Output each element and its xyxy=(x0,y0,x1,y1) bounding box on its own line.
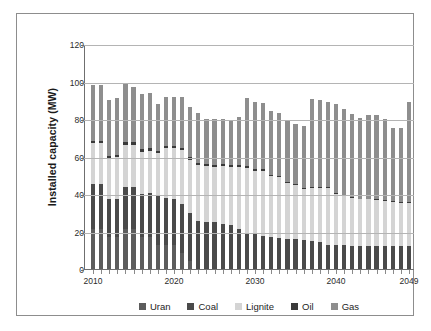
bar-2037[interactable] xyxy=(310,99,314,269)
bar-2038[interactable] xyxy=(318,100,322,269)
x-tick-mark-2044 xyxy=(368,270,369,274)
bar-segment-gas-2048 xyxy=(399,128,403,202)
legend-item-coal[interactable]: Coal xyxy=(187,302,218,312)
bar-2018[interactable] xyxy=(156,104,160,269)
bar-2045[interactable] xyxy=(374,115,378,269)
bar-2040[interactable] xyxy=(334,104,338,269)
bar-segment-gas-2011 xyxy=(99,85,103,140)
x-tick-mark-2022 xyxy=(190,270,191,274)
bar-2011[interactable] xyxy=(99,85,103,269)
legend-item-oil[interactable]: Oil xyxy=(291,302,314,312)
legend-item-lignite[interactable]: Lignite xyxy=(235,302,274,312)
bar-2049[interactable] xyxy=(407,102,411,269)
bar-segment-gas-2016 xyxy=(140,94,144,149)
bar-segment-oil-2036 xyxy=(302,188,306,189)
bar-segment-lignite-2034 xyxy=(285,183,289,238)
bar-segment-uran-2019 xyxy=(164,245,168,269)
bar-segment-coal-2037 xyxy=(310,241,314,270)
bar-2023[interactable] xyxy=(196,113,200,269)
bar-segment-lignite-2044 xyxy=(366,199,370,246)
bar-segment-gas-2034 xyxy=(285,120,289,182)
bar-2048[interactable] xyxy=(399,128,403,269)
bar-segment-gas-2018 xyxy=(156,104,160,151)
bar-2043[interactable] xyxy=(358,118,362,270)
bar-2029[interactable] xyxy=(245,98,249,269)
bar-segment-lignite-2046 xyxy=(383,201,387,246)
bar-segment-oil-2019 xyxy=(164,146,168,148)
bar-segment-lignite-2047 xyxy=(391,202,395,246)
bar-segment-gas-2041 xyxy=(342,109,346,196)
bar-2010[interactable] xyxy=(91,85,95,269)
x-tick-mark-2010 xyxy=(93,270,94,274)
bar-segment-lignite-2013 xyxy=(115,157,119,198)
x-tick-label-2010: 2010 xyxy=(84,276,103,286)
square-swatch-icon xyxy=(331,303,338,310)
bar-segment-coal-2035 xyxy=(293,239,297,269)
legend-item-uran[interactable]: Uran xyxy=(139,302,171,312)
bar-2014[interactable] xyxy=(123,83,127,269)
x-tick-mark-2047 xyxy=(393,270,394,274)
legend-label-uran: Uran xyxy=(150,302,171,312)
bar-2026[interactable] xyxy=(221,119,225,269)
bar-segment-gas-2027 xyxy=(229,120,233,165)
bar-segment-coal-2031 xyxy=(261,236,265,269)
x-tick-mark-2031 xyxy=(263,270,264,274)
x-tick-mark-2034 xyxy=(287,270,288,274)
bar-2030[interactable] xyxy=(253,102,257,269)
bar-segment-oil-2016 xyxy=(140,149,144,152)
bar-2032[interactable] xyxy=(269,111,273,269)
x-tick-mark-2016 xyxy=(142,270,143,274)
bar-segment-uran-2017 xyxy=(148,237,152,269)
bar-segment-gas-2042 xyxy=(350,114,354,197)
bar-2022[interactable] xyxy=(188,107,192,269)
gridline-y-120 xyxy=(84,45,414,46)
bar-segment-lignite-2035 xyxy=(293,185,297,239)
bar-2015[interactable] xyxy=(131,87,135,269)
bar-segment-lignite-2012 xyxy=(107,158,111,198)
legend-label-oil: Oil xyxy=(302,302,314,312)
bar-segment-coal-2020 xyxy=(172,199,176,245)
square-swatch-icon xyxy=(235,303,242,310)
bar-2041[interactable] xyxy=(342,109,346,269)
bar-2042[interactable] xyxy=(350,114,354,269)
bar-segment-gas-2022 xyxy=(188,107,192,158)
bar-2024[interactable] xyxy=(204,119,208,269)
bar-2025[interactable] xyxy=(212,119,216,269)
bar-2012[interactable] xyxy=(107,100,111,269)
bar-2047[interactable] xyxy=(391,128,395,269)
bar-2013[interactable] xyxy=(115,98,119,269)
legend-item-gas[interactable]: Gas xyxy=(331,302,359,312)
bar-2020[interactable] xyxy=(172,97,176,270)
bar-2046[interactable] xyxy=(383,119,387,269)
bar-2028[interactable] xyxy=(237,117,241,269)
bar-segment-gas-2019 xyxy=(164,97,168,147)
x-tick-mark-2020 xyxy=(174,270,175,274)
x-tick-label-2030: 2030 xyxy=(246,276,265,286)
bar-segment-lignite-2029 xyxy=(245,168,249,234)
bar-2039[interactable] xyxy=(326,102,330,269)
bar-segment-gas-2039 xyxy=(326,102,330,186)
bar-segment-oil-2026 xyxy=(221,164,225,166)
bar-2036[interactable] xyxy=(302,126,306,269)
bar-segment-lignite-2048 xyxy=(399,203,403,246)
bar-2021[interactable] xyxy=(180,97,184,270)
bar-segment-uran-2016 xyxy=(140,237,144,269)
bar-segment-coal-2030 xyxy=(253,234,257,269)
x-axis-ticks: 20102020203020402049 xyxy=(84,270,414,276)
bar-segment-oil-2032 xyxy=(269,175,273,177)
bar-2019[interactable] xyxy=(164,97,168,270)
chart-legend: UranCoalLigniteOilGas xyxy=(84,300,414,313)
bar-2033[interactable] xyxy=(277,113,281,269)
x-tick-mark-2025 xyxy=(215,270,216,274)
bar-2044[interactable] xyxy=(366,115,370,269)
x-tick-mark-2042 xyxy=(352,270,353,274)
bar-segment-coal-2046 xyxy=(383,246,387,269)
bar-2035[interactable] xyxy=(293,124,297,269)
bar-2031[interactable] xyxy=(261,103,265,269)
bar-segment-gas-2037 xyxy=(310,99,314,187)
bar-segment-coal-2019 xyxy=(164,198,168,245)
x-tick-mark-2026 xyxy=(223,270,224,274)
bar-segment-oil-2015 xyxy=(131,142,135,145)
bar-segment-gas-2014 xyxy=(123,83,127,142)
y-axis-ticks: 020406080100120 xyxy=(53,45,84,271)
